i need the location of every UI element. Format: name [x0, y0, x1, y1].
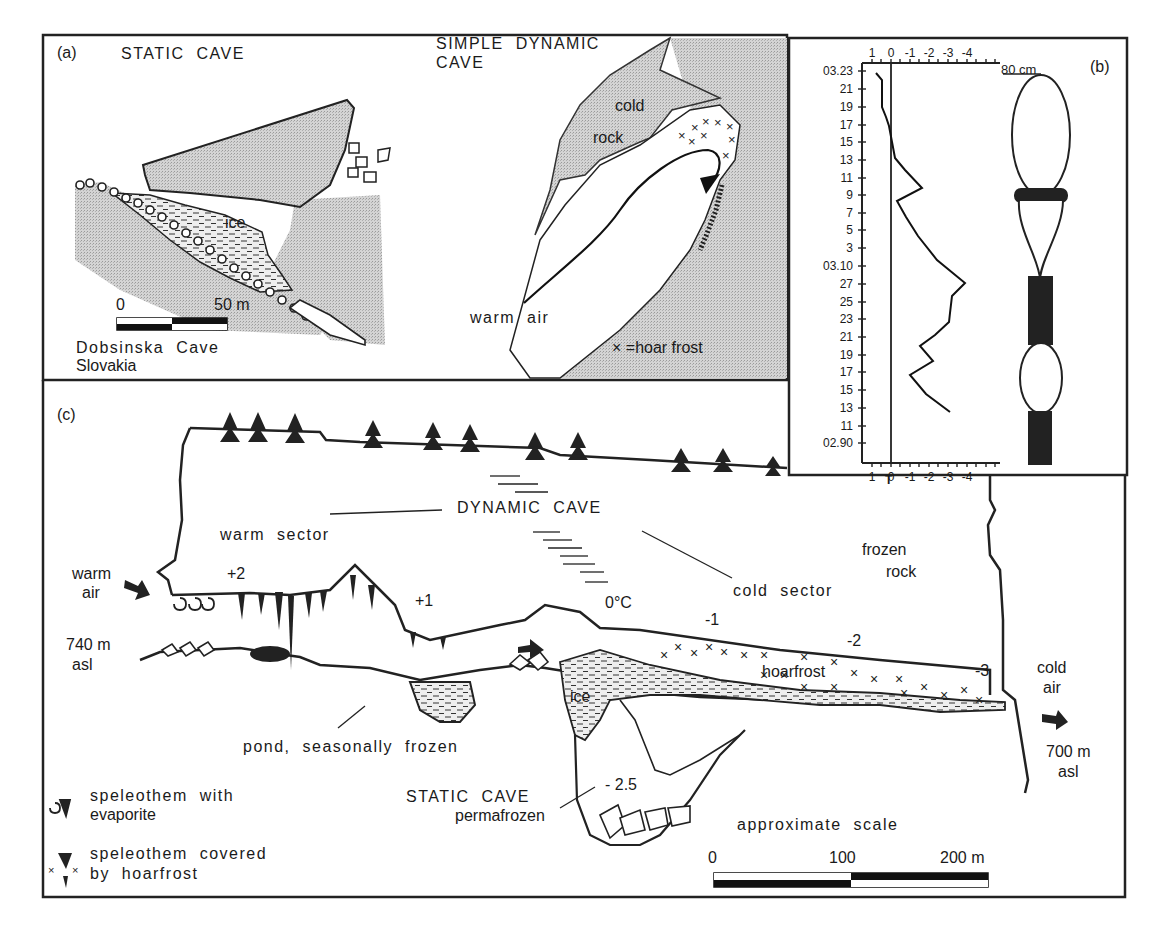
dynamic-cave-title-line2: CAVE [436, 55, 484, 71]
legend-evaporite-line2: evaporite [90, 807, 156, 823]
column-dark-2 [1029, 412, 1051, 464]
scale-a-end: 50 m [214, 297, 250, 313]
temp-plus1: +1 [415, 593, 433, 609]
svg-text:×: × [722, 148, 730, 163]
warm-air-c-line1: warm [72, 566, 111, 582]
scale-bar-c [714, 873, 988, 887]
cold-air-arrow [1042, 710, 1068, 730]
floor-blocks [162, 642, 548, 670]
svg-text:×: × [870, 671, 878, 687]
legend-evaporite-icon [50, 800, 70, 816]
elev-left-line2: asl [72, 657, 92, 673]
svg-text:×: × [688, 134, 696, 149]
trees [220, 412, 781, 476]
scale-bar-a [117, 318, 227, 330]
svg-text:×: × [705, 639, 713, 655]
isotherm-zero [490, 476, 608, 582]
evaporite-speleothems [174, 598, 214, 610]
svg-text:×: × [830, 654, 838, 670]
scale-c-tick-200: 200 m [940, 850, 984, 866]
static-cave-c-line1: STATIC CAVE [406, 789, 530, 805]
temp-minus2: -2 [847, 633, 861, 649]
temp-plus2: +2 [227, 566, 245, 582]
svg-text:×: × [691, 120, 699, 135]
elev-right-line2: asl [1058, 764, 1078, 780]
temp-zero: 0°C [605, 595, 632, 611]
static-cave-blocks [600, 805, 690, 838]
cold-label: cold [615, 98, 644, 114]
legend-hoarfrost-icon: × × [48, 853, 78, 888]
legend-hoarfrost-line2: by hoarfrost [90, 866, 198, 882]
scale-c-tick-100: 100 [829, 850, 856, 866]
temperature-chart [858, 59, 1000, 467]
ice-column-drawing [1003, 74, 1070, 464]
legend-hoarfrost-line1: speleothem covered [90, 846, 267, 862]
leader-pond [338, 706, 365, 728]
svg-text:×: × [700, 128, 708, 143]
hoarfrost-label: hoarfrost [762, 664, 825, 680]
stalagmite-mound [250, 646, 290, 662]
pond-label: pond, seasonally frozen [243, 739, 459, 755]
svg-text:×: × [72, 864, 78, 876]
temp-minus1: -1 [705, 612, 719, 628]
column-dark-1 [1029, 277, 1052, 344]
dynamic-cave-sketch: ××× ××× ××× [510, 38, 787, 378]
dynamic-cave-title-line1: SIMPLE DYNAMIC [436, 36, 600, 52]
rock-label: rock [593, 130, 623, 146]
cold-air-line1: cold [1037, 660, 1066, 676]
pond [410, 682, 475, 722]
svg-text:×: × [900, 685, 908, 701]
warm-sector-label: warm sector [220, 527, 330, 543]
location-line1: Dobsinska Cave [76, 340, 220, 356]
leader-cold-sector [642, 531, 732, 578]
column-size-label: 80 cm [1001, 63, 1036, 76]
svg-text:×: × [920, 679, 928, 695]
svg-text:×: × [48, 864, 54, 876]
hoar-frost-legend: × =hoar frost [612, 340, 703, 356]
cliff-left [158, 428, 190, 595]
temp-minus25: - 2.5 [605, 777, 637, 793]
panel-a-label: (a) [57, 45, 77, 61]
cold-sector-label: cold sector [733, 583, 833, 599]
svg-text:×: × [760, 647, 768, 663]
svg-text:×: × [690, 645, 698, 661]
rock-upper [143, 100, 354, 207]
elev-left-line1: 740 m [66, 637, 110, 653]
land-surface [190, 428, 787, 468]
ice-label-c: ice [570, 689, 590, 705]
static-cave-c-line2: permafrozen [455, 808, 545, 824]
location-line2: Slovakia [76, 358, 136, 374]
svg-text:×: × [702, 114, 710, 129]
leader-warm-sector [330, 510, 442, 514]
svg-text:×: × [740, 647, 748, 663]
warm-air-c-line2: air [82, 585, 100, 601]
scale-title: approximate scale [737, 817, 898, 833]
svg-text:×: × [940, 687, 948, 703]
legend-evaporite-line1: speleothem with [90, 788, 234, 804]
column-lower-bulb [1020, 343, 1062, 413]
elev-right-line1: 700 m [1046, 744, 1090, 760]
scale-a-start: 0 [116, 297, 125, 313]
static-cave-title: STATIC CAVE [121, 46, 245, 62]
svg-text:×: × [800, 679, 808, 695]
warm-air-arrow [124, 580, 150, 600]
cliff-right [988, 475, 1028, 793]
breakdown-blocks [348, 143, 390, 182]
column-top-bulb [1012, 75, 1070, 195]
dynamic-cave-title-c: DYNAMIC CAVE [457, 500, 602, 516]
column-mid [1019, 200, 1063, 280]
svg-text:×: × [960, 682, 968, 698]
svg-text:×: × [674, 639, 682, 655]
svg-text:×: × [728, 132, 736, 147]
temperature-series-line [876, 73, 965, 412]
frozen-rock-line2: rock [886, 564, 916, 580]
svg-text:×: × [850, 665, 858, 681]
svg-text:×: × [720, 644, 728, 660]
panel-b-label: (b) [1090, 59, 1110, 75]
svg-text:×: × [660, 647, 668, 663]
temp-minus3: -3 [975, 663, 989, 679]
svg-text:×: × [678, 128, 686, 143]
static-ice-label: ice [225, 215, 245, 231]
svg-text:×: × [830, 679, 838, 695]
cave-cross-section: ××× ××× ××× ××× ××× ××× ××× × × [48, 412, 1068, 888]
